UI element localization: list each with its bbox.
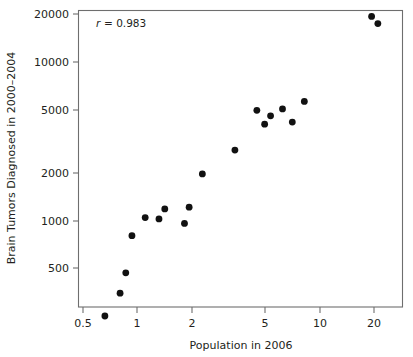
data-point <box>267 112 274 119</box>
data-point <box>117 290 124 297</box>
y-tick-label: 500 <box>48 262 69 275</box>
x-tick-label: 0.5 <box>74 317 92 330</box>
x-tick-label: 10 <box>313 317 327 330</box>
data-point <box>301 98 308 105</box>
data-points-layer <box>102 13 382 319</box>
data-point <box>232 147 239 154</box>
x-tick-label: 20 <box>367 317 381 330</box>
data-point <box>279 106 286 113</box>
data-point <box>253 107 260 114</box>
y-tick-label: 10000 <box>34 56 69 69</box>
data-point <box>129 232 136 239</box>
correlation-annotation: r = 0.983 <box>96 17 146 29</box>
correlation-symbol: r <box>96 17 101 29</box>
x-axis-tick-labels: 0.5 1 2 5 10 20 <box>74 317 381 330</box>
y-tick-label: 20000 <box>34 8 69 21</box>
data-point <box>142 214 149 221</box>
data-point <box>102 313 109 320</box>
chart-canvas: 20000 10000 5000 2000 1000 500 0.5 1 2 5… <box>0 0 413 357</box>
data-point <box>374 20 381 27</box>
x-tick-label: 5 <box>262 317 269 330</box>
y-axis-title: Brain Tumors Diagnosed in 2000–2004 <box>5 52 18 265</box>
y-axis-ticks <box>73 14 79 268</box>
correlation-value: = 0.983 <box>104 17 146 29</box>
data-point <box>199 171 206 178</box>
data-point <box>156 216 163 223</box>
plot-frame <box>79 11 403 308</box>
y-tick-label: 5000 <box>41 104 69 117</box>
y-axis-tick-labels: 20000 10000 5000 2000 1000 500 <box>34 8 69 275</box>
data-point <box>122 269 129 276</box>
x-axis-title: Population in 2006 <box>190 339 293 352</box>
scatter-plot-figure: 20000 10000 5000 2000 1000 500 0.5 1 2 5… <box>0 0 413 357</box>
y-tick-label: 2000 <box>41 167 69 180</box>
data-point <box>161 205 168 212</box>
data-point <box>186 204 193 211</box>
data-point <box>181 220 188 227</box>
data-point <box>368 13 375 20</box>
x-tick-label: 2 <box>189 317 196 330</box>
x-tick-label: 1 <box>134 317 141 330</box>
data-point <box>289 119 296 126</box>
y-tick-label: 1000 <box>41 215 69 228</box>
data-point <box>261 121 268 128</box>
x-axis-ticks <box>83 307 374 313</box>
